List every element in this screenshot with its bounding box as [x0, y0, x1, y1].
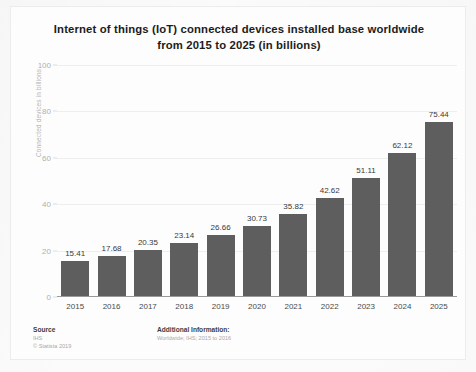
source-name: IHS	[33, 334, 71, 342]
chart-title-line-2: from 2015 to 2025 (in billions)	[11, 38, 467, 54]
bar[interactable]	[279, 214, 307, 297]
bar-value-label: 30.73	[239, 214, 275, 223]
bar[interactable]	[316, 198, 344, 297]
additional-info-block: Additional Information: Worldwide; IHS; …	[157, 325, 231, 342]
bar-group[interactable]: 42.62	[312, 65, 348, 297]
chart-title-line-1: Internet of things (IoT) connected devic…	[11, 22, 467, 38]
bar-value-label: 20.35	[130, 238, 166, 247]
chart-panel: Internet of things (IoT) connected devic…	[10, 6, 466, 360]
x-tick-label: 2018	[166, 302, 202, 311]
bar-value-label: 35.82	[275, 202, 311, 211]
bar-group[interactable]: 51.11	[348, 65, 384, 297]
y-tick-label: 40	[42, 200, 51, 209]
bar-group[interactable]: 30.73	[239, 65, 275, 297]
bar-value-label: 15.41	[57, 249, 93, 258]
bar-value-label: 26.66	[202, 223, 238, 232]
x-tick-label: 2021	[275, 302, 311, 311]
additional-info-line: Worldwide; IHS; 2015 to 2016	[157, 334, 231, 342]
bar[interactable]	[425, 122, 453, 297]
bar[interactable]	[388, 153, 416, 297]
y-tick-label: 100	[38, 61, 51, 70]
bar-group[interactable]: 20.35	[130, 65, 166, 297]
y-axis-label: Connected devices in billions	[35, 69, 42, 157]
chart-footer: Source IHS © Statista 2019 Additional In…	[11, 325, 467, 361]
bar-group[interactable]: 17.68	[93, 65, 129, 297]
scanned-page-background: Internet of things (IoT) connected devic…	[0, 0, 476, 372]
copyright-line: © Statista 2019	[33, 342, 71, 350]
y-tick-label: 0	[47, 293, 51, 302]
bar[interactable]	[134, 250, 162, 297]
additional-info-heading: Additional Information:	[157, 325, 231, 334]
x-tick-label: 2024	[384, 302, 420, 311]
source-heading: Source	[33, 325, 71, 334]
source-block: Source IHS © Statista 2019	[33, 325, 71, 350]
x-axis-line	[57, 296, 457, 297]
bar-group[interactable]: 26.66	[202, 65, 238, 297]
y-tick-label: 20	[42, 246, 51, 255]
bar-value-label: 51.11	[348, 166, 384, 175]
y-tick-label: 60	[42, 153, 51, 162]
x-tick-label: 2020	[239, 302, 275, 311]
bar[interactable]	[61, 261, 89, 297]
x-tick-label: 2015	[57, 302, 93, 311]
bar[interactable]	[170, 243, 198, 297]
bar-value-label: 75.44	[421, 110, 457, 119]
bar[interactable]	[207, 235, 235, 297]
y-tick-label: 80	[42, 107, 51, 116]
x-tick-label: 2019	[202, 302, 238, 311]
bar[interactable]	[243, 226, 271, 297]
bar[interactable]	[98, 256, 126, 297]
bar-group[interactable]: 35.82	[275, 65, 311, 297]
bar-group[interactable]: 23.14	[166, 65, 202, 297]
bar-group[interactable]: 62.12	[384, 65, 420, 297]
x-tick-label: 2022	[312, 302, 348, 311]
bar[interactable]	[352, 178, 380, 297]
x-tick-label: 2025	[421, 302, 457, 311]
chart-title: Internet of things (IoT) connected devic…	[11, 22, 467, 53]
bar-value-label: 23.14	[166, 231, 202, 240]
bar-value-label: 17.68	[93, 244, 129, 253]
bar-group[interactable]: 75.44	[421, 65, 457, 297]
x-tick-label: 2016	[93, 302, 129, 311]
bar-group[interactable]: 15.41	[57, 65, 93, 297]
plot-area: 020406080100 15.4117.6820.3523.1426.6630…	[57, 65, 457, 297]
x-tick-label: 2017	[130, 302, 166, 311]
bar-value-label: 42.62	[312, 186, 348, 195]
bar-value-label: 62.12	[384, 141, 420, 150]
x-tick-label: 2023	[348, 302, 384, 311]
